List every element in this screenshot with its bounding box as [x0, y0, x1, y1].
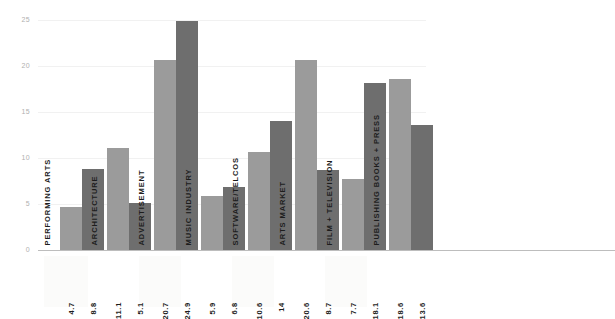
- bar-publishing-b: [411, 125, 433, 250]
- value-label-performing-arts-b: 8.8: [90, 302, 98, 315]
- value-labels: 4.7 8.8 11.1 5.1 20.7 24.9 5.9 6.8 10.6 …: [38, 258, 428, 307]
- bar-arts-market-a: [295, 60, 317, 250]
- value-label-architecture-b: 5.1: [137, 302, 145, 315]
- ytick-10: 10: [0, 154, 30, 161]
- value-label-advertisement-a: 20.7: [162, 302, 170, 319]
- value-label-film-television-a: 7.7: [350, 302, 358, 315]
- bar-publishing-a: [389, 79, 411, 250]
- value-label-arts-market-a: 20.6: [303, 302, 311, 319]
- category-label-architecture: ARCHITECTURE: [91, 175, 99, 245]
- value-label-publishing-b: 13.6: [419, 302, 427, 319]
- ytick-5: 5: [0, 200, 30, 207]
- category-label-film-television: FILM + TELEVISION: [326, 159, 334, 245]
- value-label-arts-market-b: 8.7: [325, 302, 333, 315]
- bar-performing-arts-a: [60, 207, 82, 250]
- ytick-20: 20: [0, 62, 30, 69]
- value-label-music-industry-b: 6.8: [231, 302, 239, 315]
- bar-architecture-a: [107, 148, 129, 250]
- category-label-arts-market: ARTS MARKET: [279, 181, 287, 245]
- bar-software-telcos-a: [248, 152, 270, 250]
- value-label-software-telcos-a: 10.6: [256, 302, 264, 319]
- category-label-advertisement: ADVERTISEMENT: [138, 169, 146, 245]
- ytick-0: 0: [0, 246, 30, 253]
- category-label-music-industry: MUSIC INDUSTRY: [185, 168, 193, 245]
- ytick-25: 25: [0, 16, 30, 23]
- value-label-advertisement-b: 24.9: [184, 302, 192, 319]
- value-label-software-telcos-b: 14: [278, 302, 286, 312]
- category-label-performing-arts: PERFORMING ARTS: [44, 158, 52, 245]
- category-label-software-telcos: SOFTWARE/TELCOS: [232, 157, 240, 246]
- value-label-architecture-a: 11.1: [115, 302, 123, 319]
- plot-area: PERFORMING ARTS ARCHITECTURE ADVERTISEME…: [38, 10, 428, 255]
- value-label-publishing-a: 18.6: [397, 302, 405, 319]
- ytick-15: 15: [0, 108, 30, 115]
- category-label-publishing: PUBLISHING BOOKS + PRESS: [373, 114, 381, 245]
- bar-music-industry-a: [201, 196, 223, 250]
- bar-advertisement-a: [154, 60, 176, 250]
- bar-film-television-a: [342, 179, 364, 250]
- value-label-film-television-b: 18.1: [372, 302, 380, 319]
- value-label-music-industry-a: 5.9: [209, 302, 217, 315]
- value-label-performing-arts-a: 4.7: [68, 302, 76, 315]
